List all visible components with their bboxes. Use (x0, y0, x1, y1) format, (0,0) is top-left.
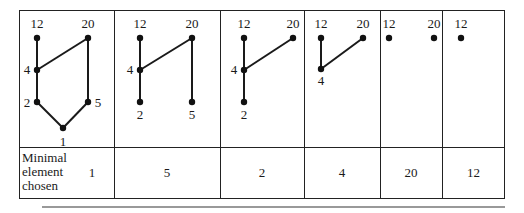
node-1 (60, 125, 66, 131)
minimal-chosen-step-4: 4 (304, 147, 380, 199)
node-4 (34, 67, 40, 73)
node-2 (34, 99, 40, 105)
node-20 (189, 35, 195, 41)
node-label: 4 (231, 62, 238, 77)
hasse-diagram-step-5: 1220 (383, 16, 441, 41)
node-2 (137, 99, 143, 105)
node-20 (85, 35, 91, 41)
node-label: 12 (31, 16, 44, 31)
hasse-diagram-step-4: 12204 (315, 16, 370, 88)
edge (140, 38, 192, 70)
node-label: 12 (315, 16, 328, 31)
node-label: 12 (383, 16, 396, 31)
node-label: 12 (134, 16, 147, 31)
node-label: 12 (238, 16, 251, 31)
node-20 (290, 35, 296, 41)
node-label: 20 (82, 16, 95, 31)
hasse-diagram-step-1: 12204251 (24, 16, 102, 149)
minimal-chosen-step-2: 5 (114, 147, 220, 199)
edge (321, 38, 363, 69)
node-4 (137, 67, 143, 73)
node-12 (241, 35, 247, 41)
node-label: 20 (428, 16, 441, 31)
edge (244, 38, 293, 70)
row-label-line: Minimal (22, 151, 67, 165)
node-label: 5 (189, 107, 196, 122)
node-label: 2 (24, 95, 31, 110)
edge (63, 102, 88, 128)
node-label: 20 (287, 16, 300, 31)
node-label: 4 (24, 62, 31, 77)
edge (37, 102, 63, 128)
row-label-minimal-element-chosen: Minimal element chosen (22, 151, 67, 193)
minimal-chosen-step-1: 1 (70, 147, 114, 199)
node-label: 1 (60, 134, 67, 149)
node-label: 12 (455, 16, 468, 31)
node-label: 4 (127, 62, 134, 77)
node-20 (360, 35, 366, 41)
node-20 (431, 35, 437, 41)
node-2 (241, 99, 247, 105)
node-5 (85, 99, 91, 105)
row-label-line: chosen (22, 179, 67, 193)
hasse-diagram-step-6: 12 (455, 16, 468, 41)
node-12 (318, 35, 324, 41)
node-5 (189, 99, 195, 105)
node-label: 2 (241, 107, 248, 122)
node-label: 4 (318, 73, 325, 88)
minimal-chosen-step-3: 2 (220, 147, 304, 199)
node-label: 20 (186, 16, 199, 31)
bottom-rule (42, 206, 505, 208)
node-label: 5 (95, 95, 102, 110)
node-4 (318, 66, 324, 72)
node-label: 20 (357, 16, 370, 31)
node-4 (241, 67, 247, 73)
minimal-chosen-step-6: 12 (442, 147, 505, 199)
node-12 (34, 35, 40, 41)
hasse-diagram-step-2: 1220425 (127, 16, 199, 122)
row-label-line: element (22, 165, 67, 179)
node-12 (137, 35, 143, 41)
minimal-chosen-step-5: 20 (380, 147, 442, 199)
node-label: 2 (137, 107, 144, 122)
node-12 (458, 35, 464, 41)
edge (37, 38, 88, 70)
node-12 (386, 35, 392, 41)
hasse-diagram-step-3: 122042 (231, 16, 300, 122)
